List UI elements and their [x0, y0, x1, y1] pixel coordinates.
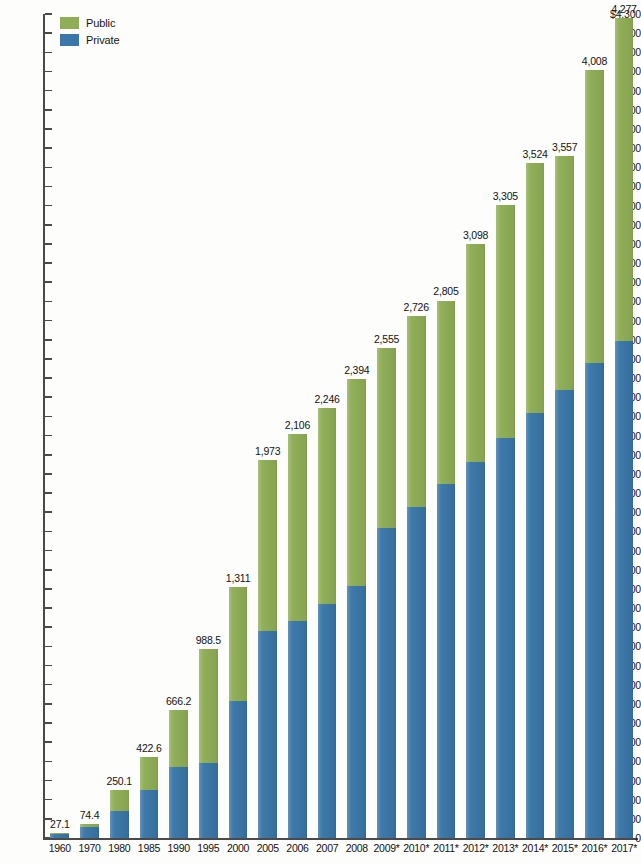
bar-stack[interactable] — [377, 348, 396, 838]
bar-stack[interactable] — [526, 163, 545, 838]
bar-segment-private[interactable] — [615, 341, 634, 838]
bar-stack[interactable] — [110, 790, 129, 838]
bar-segment-private[interactable] — [526, 413, 545, 838]
x-axis-tick-label: 2011* — [431, 842, 461, 854]
legend-item-private[interactable]: Private — [60, 33, 180, 46]
bar-segment-public[interactable] — [288, 434, 307, 621]
bar-segment-private[interactable] — [466, 462, 485, 838]
legend-item-public[interactable]: Public — [60, 16, 180, 29]
bar-segment-private[interactable] — [347, 586, 366, 838]
bar-stack[interactable] — [229, 587, 248, 838]
bar-value-label: 250.1 — [107, 775, 132, 787]
stacked-bar-chart: $4,3004,2004,1004,0003,9003,8003,7003,60… — [0, 0, 641, 865]
bar-segment-public[interactable] — [466, 244, 485, 461]
bar-segment-public[interactable] — [229, 587, 248, 701]
bar-segment-private[interactable] — [169, 767, 188, 838]
bar-segment-public[interactable] — [347, 379, 366, 586]
x-axis-tick-label: 1990 — [164, 842, 194, 854]
bar-segment-private[interactable] — [110, 811, 129, 838]
bar-stack[interactable] — [407, 316, 426, 838]
bar-segment-public[interactable] — [437, 301, 456, 485]
bar-segment-public[interactable] — [407, 316, 426, 507]
bar-stack[interactable] — [199, 649, 218, 838]
bar-segment-public[interactable] — [496, 205, 515, 438]
bar-group[interactable]: 4,008 — [585, 14, 604, 838]
bar-segment-public[interactable] — [169, 710, 188, 767]
bar-segment-public[interactable] — [199, 649, 218, 764]
bar-segment-public[interactable] — [615, 18, 634, 341]
bar-stack[interactable] — [288, 434, 307, 838]
bar-group[interactable]: 422.6 — [140, 14, 159, 838]
bar-group[interactable]: 2,246 — [318, 14, 337, 838]
bar-group[interactable]: 1,311 — [229, 14, 248, 838]
bar-stack[interactable] — [80, 824, 99, 838]
bar-stack[interactable] — [496, 205, 515, 838]
bar-stack[interactable] — [140, 757, 159, 838]
bar-group[interactable]: 3,524 — [526, 14, 545, 838]
bar-group[interactable]: 2,805 — [437, 14, 456, 838]
bar-group[interactable]: 2,394 — [347, 14, 366, 838]
bar-segment-private[interactable] — [199, 763, 218, 838]
bar-segment-private[interactable] — [80, 827, 99, 838]
bar-segment-private[interactable] — [318, 604, 337, 838]
bar-segment-private[interactable] — [140, 790, 159, 838]
bar-stack[interactable] — [466, 244, 485, 838]
bar-value-label: 2,246 — [314, 393, 339, 405]
x-axis-tick-label: 2005 — [253, 842, 283, 854]
bar-group[interactable]: 2,726 — [407, 14, 426, 838]
bar-group[interactable]: 3,098 — [466, 14, 485, 838]
bar-group[interactable]: 988.5 — [199, 14, 218, 838]
bar-value-label: 4,277 — [611, 3, 636, 15]
bar-stack[interactable] — [615, 18, 634, 838]
bar-segment-private[interactable] — [50, 834, 69, 838]
bar-stack[interactable] — [437, 301, 456, 839]
bar-value-label: 3,098 — [463, 229, 488, 241]
bar-value-label: 988.5 — [196, 634, 221, 646]
bar-segment-public[interactable] — [258, 460, 277, 631]
bar-segment-private[interactable] — [585, 363, 604, 838]
bar-segment-private[interactable] — [288, 621, 307, 838]
bar-stack[interactable] — [169, 710, 188, 838]
bar-segment-public[interactable] — [140, 757, 159, 790]
bar-stack[interactable] — [555, 156, 574, 838]
bar-stack[interactable] — [258, 460, 277, 838]
bar-segment-public[interactable] — [110, 790, 129, 811]
bar-value-label: 3,524 — [522, 148, 547, 160]
bar-segment-public[interactable] — [377, 348, 396, 528]
bar-stack[interactable] — [585, 70, 604, 838]
bar-group[interactable]: 3,557 — [555, 14, 574, 838]
bar-segment-private[interactable] — [229, 701, 248, 838]
bar-group[interactable]: 2,555 — [377, 14, 396, 838]
bar-stack[interactable] — [50, 833, 69, 838]
bar-segment-public[interactable] — [585, 70, 604, 363]
legend-item-label: Private — [86, 34, 120, 46]
bar-value-label: 74.4 — [80, 809, 100, 821]
bar-stack[interactable] — [347, 379, 366, 838]
bar-segment-private[interactable] — [258, 631, 277, 838]
bar-value-label: 2,726 — [404, 301, 429, 313]
x-axis-tick-label: 2007 — [312, 842, 342, 854]
bar-value-label: 3,557 — [552, 141, 577, 153]
bar-group[interactable]: 1,973 — [258, 14, 277, 838]
bar-group[interactable]: 250.1 — [110, 14, 129, 838]
bar-segment-private[interactable] — [437, 484, 456, 838]
bar-group[interactable]: 74.4 — [80, 14, 99, 838]
bar-stack[interactable] — [318, 408, 337, 838]
bar-group[interactable]: 3,305 — [496, 14, 515, 838]
plot-area: 27.174.4250.1422.6666.2988.51,3111,9732,… — [45, 14, 639, 838]
bar-value-label: 4,008 — [582, 55, 607, 67]
bar-group[interactable]: 4,277 — [615, 14, 634, 838]
bar-segment-private[interactable] — [377, 528, 396, 838]
bar-group[interactable]: 27.1 — [50, 14, 69, 838]
bar-segment-public[interactable] — [526, 163, 545, 413]
x-axis-tick-label: 2009* — [372, 842, 402, 854]
bar-segment-public[interactable] — [318, 408, 337, 604]
bar-segment-private[interactable] — [555, 390, 574, 838]
bar-segment-private[interactable] — [407, 507, 426, 838]
x-axis-tick-label: 1960 — [45, 842, 75, 854]
bar-group[interactable]: 2,106 — [288, 14, 307, 838]
bar-segment-public[interactable] — [555, 156, 574, 389]
bar-segment-private[interactable] — [496, 438, 515, 839]
bar-group[interactable]: 666.2 — [169, 14, 188, 838]
x-axis-tick-label: 1995 — [194, 842, 224, 854]
